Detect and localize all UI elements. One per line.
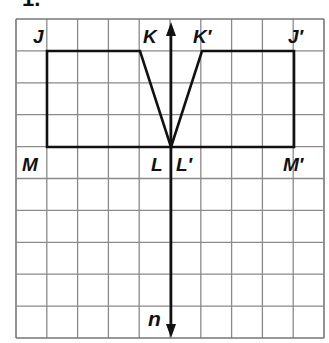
line-n-axis xyxy=(166,22,176,338)
label-j: J xyxy=(33,27,44,46)
label-j-prime: J′ xyxy=(288,27,303,46)
label-line-n: n xyxy=(148,308,161,329)
label-m-prime: M′ xyxy=(283,155,303,174)
label-m: M xyxy=(22,155,38,174)
reflection-diagram xyxy=(0,0,329,343)
label-l-prime: L′ xyxy=(176,155,192,174)
arrow-down-icon xyxy=(166,324,176,338)
label-k: K xyxy=(143,27,157,46)
label-k-prime: K′ xyxy=(193,27,211,46)
label-l: L xyxy=(151,155,163,174)
arrow-up-icon xyxy=(166,22,176,36)
figure-j-prime-k-prime-l-prime-m-prime xyxy=(171,51,294,147)
